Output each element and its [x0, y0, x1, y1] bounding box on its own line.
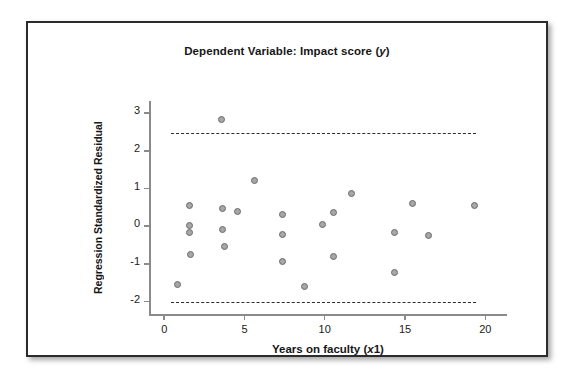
figure-frame: Dependent Variable: Impact score (y) Reg… — [26, 21, 548, 357]
scatter-point — [221, 243, 228, 250]
x-tick: 0 — [163, 314, 165, 320]
x-axis-title: Years on faculty (x1) — [149, 343, 507, 355]
x-tick: 20 — [485, 314, 487, 320]
reference-line-upper-limit — [171, 133, 476, 134]
scatter-point — [251, 177, 258, 184]
scatter-point — [174, 281, 181, 288]
y-tick: 2 — [144, 150, 149, 152]
scatter-point — [219, 205, 226, 212]
chart-title-paren: (y) — [372, 45, 390, 57]
y-tick: 3 — [144, 112, 149, 114]
y-tick: 0 — [144, 225, 149, 227]
scatter-point — [301, 283, 308, 290]
x-tick: 10 — [324, 314, 326, 320]
scatter-point — [279, 231, 286, 238]
scatter-point — [234, 208, 241, 215]
x-axis-line — [149, 314, 507, 316]
scatter-point — [186, 202, 193, 209]
y-tick-label: 0 — [134, 217, 140, 229]
chart-title: Dependent Variable: Impact score (y) — [28, 45, 546, 57]
x-tick-label: 5 — [241, 323, 247, 335]
scatter-point — [330, 209, 337, 216]
y-tick: -1 — [144, 263, 149, 265]
x-tick-label: 10 — [319, 323, 331, 335]
plot-area: -2-10123 05101520 — [149, 101, 507, 321]
scatter-point — [391, 269, 398, 276]
y-tick-label: 1 — [134, 180, 140, 192]
scatter-point — [391, 229, 398, 236]
scatter-point — [348, 190, 355, 197]
x-tick-label: 20 — [479, 323, 491, 335]
scatter-point — [319, 221, 326, 228]
x-axis-title-paren: (x1) — [360, 343, 384, 355]
x-tick: 15 — [404, 314, 406, 320]
scatter-point — [330, 253, 337, 260]
y-tick: 1 — [144, 188, 149, 190]
x-axis-title-subscript: 1 — [374, 343, 380, 355]
x-axis-title-text: Years on faculty — [272, 343, 360, 355]
scatter-point — [409, 200, 416, 207]
y-tick-label: 3 — [134, 104, 140, 116]
x-tick-label: 0 — [161, 323, 167, 335]
y-tick: -2 — [144, 301, 149, 303]
x-tick-label: 15 — [399, 323, 411, 335]
scatter-point — [471, 202, 478, 209]
y-tick-label: -1 — [130, 255, 140, 267]
scatter-point — [218, 116, 225, 123]
chart-title-variable: y — [379, 45, 386, 57]
y-tick-label: 2 — [134, 142, 140, 154]
scatter-point — [279, 258, 286, 265]
scatter-point — [186, 229, 193, 236]
x-tick: 5 — [244, 314, 246, 320]
scatter-point — [219, 226, 226, 233]
y-axis-line — [149, 101, 151, 314]
reference-line-lower-limit — [171, 302, 476, 303]
chart-title-text: Dependent Variable: Impact score — [184, 45, 372, 57]
scatter-point — [186, 222, 193, 229]
scatter-point — [187, 251, 194, 258]
y-axis-title: Regression Standardized Residual — [92, 101, 104, 314]
scatter-point — [425, 232, 432, 239]
y-tick-label: -2 — [130, 293, 140, 305]
scatter-point — [279, 211, 286, 218]
